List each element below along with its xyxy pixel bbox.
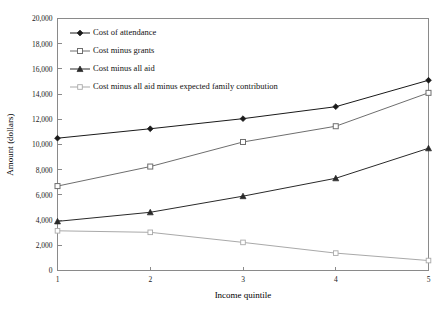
legend-item: Cost minus all aid: [70, 63, 155, 73]
data-point: [333, 104, 339, 110]
data-point: [148, 164, 153, 169]
y-tick-label: 12,000: [32, 115, 53, 124]
series-line: [58, 231, 429, 261]
legend-item: Cost of attendance: [70, 27, 156, 37]
data-point: [426, 77, 432, 83]
legend-label: Cost of attendance: [93, 27, 156, 37]
data-point: [55, 229, 60, 234]
y-tick-label: 20,000: [32, 14, 53, 23]
y-tick-label: 10,000: [32, 140, 53, 149]
x-tick-label: 4: [334, 275, 338, 284]
x-tick-label: 2: [148, 275, 152, 284]
data-point: [148, 230, 153, 235]
legend-item: Cost minus grants: [70, 45, 154, 55]
legend-marker: [78, 85, 83, 90]
legend-label: Cost minus grants: [93, 45, 154, 55]
data-point: [333, 251, 338, 256]
data-point: [55, 184, 60, 189]
x-tick-label: 5: [427, 275, 431, 284]
y-axis-title: Amount (dollars): [5, 113, 15, 175]
legend-label: Cost minus all aid: [93, 63, 155, 73]
data-point: [426, 90, 431, 95]
y-tick-label: 18,000: [32, 40, 53, 49]
series-line: [58, 148, 429, 221]
data-point: [426, 145, 432, 151]
legend-label: Cost minus all aid minus expected family…: [93, 81, 279, 91]
y-tick-label: 14,000: [32, 90, 53, 99]
x-tick-label: 1: [56, 275, 60, 284]
data-point: [241, 139, 246, 144]
y-tick-label: 6,000: [36, 191, 53, 200]
series-4: [55, 229, 431, 263]
series-3: [55, 145, 432, 224]
data-point: [147, 126, 153, 132]
data-point: [426, 258, 431, 263]
data-point: [55, 135, 61, 141]
line-chart: 02,0004,0006,0008,00010,00012,00014,0001…: [0, 0, 444, 311]
data-point: [241, 240, 246, 245]
y-tick-label: 2,000: [36, 241, 53, 250]
x-axis-title: Income quintile: [215, 290, 272, 300]
data-point: [240, 116, 246, 122]
legend-item: Cost minus all aid minus expected family…: [70, 81, 279, 91]
x-tick-label: 3: [241, 275, 245, 284]
legend-marker: [78, 49, 83, 54]
chart-figure: 02,0004,0006,0008,00010,00012,00014,0001…: [0, 0, 444, 311]
series-2: [55, 90, 431, 188]
y-tick-label: 8,000: [36, 166, 53, 175]
y-tick-label: 0: [49, 266, 53, 275]
y-tick-label: 16,000: [32, 65, 53, 74]
y-tick-label: 4,000: [36, 216, 53, 225]
legend-marker: [77, 30, 83, 36]
legend: Cost of attendanceCost minus grantsCost …: [70, 27, 279, 91]
data-point: [333, 124, 338, 129]
